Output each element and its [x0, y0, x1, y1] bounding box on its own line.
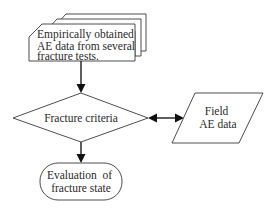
arrow-down-icon: [77, 154, 86, 163]
evaluation-label: Evaluation of fracture state: [47, 169, 115, 194]
criteria-label: Fracture criteria: [44, 112, 118, 124]
arrow-down-icon: [77, 84, 86, 93]
flowchart-diagram: Empirically obtained AE data from severa…: [0, 0, 276, 208]
edge-input-to-criteria: [77, 61, 86, 93]
node-field-data: Field AE data: [172, 93, 263, 143]
node-criteria: Fracture criteria: [13, 93, 148, 142]
edge-criteria-field: [148, 114, 184, 123]
arrow-left-icon: [148, 114, 157, 123]
node-evaluation: Evaluation of fracture state: [40, 163, 122, 200]
node-input-data: Empirically obtained AE data from severa…: [29, 14, 146, 62]
field-data-label: Field AE data: [199, 105, 236, 130]
edge-criteria-to-evaluation: [77, 142, 86, 163]
